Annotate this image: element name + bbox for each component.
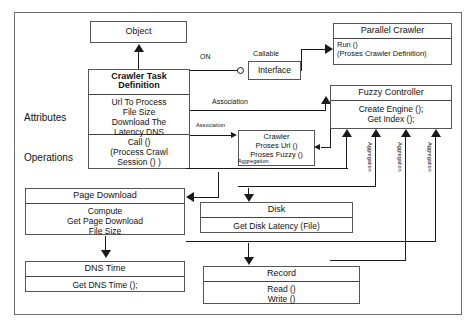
connector-label-on: ON — [200, 53, 211, 60]
fuzzy-to-crawler-hline — [321, 147, 331, 148]
dns-time-body: Get DNS Time (); — [26, 277, 184, 292]
interface-title: Interface — [249, 62, 300, 78]
aggregation-3-hline — [330, 260, 406, 261]
interface-to-parallel-arrowhead — [325, 44, 333, 54]
connector-label-aggregation-4: Aggregation — [427, 142, 433, 172]
record-title: Record — [204, 267, 359, 282]
ctd-attr-2: File Size — [91, 107, 187, 117]
page-download-to-dns-arrowhead — [101, 250, 111, 258]
aggregation-3-arrowhead — [401, 129, 411, 137]
aggregation-1-vline — [346, 137, 347, 169]
fuzzy-to-crawler-arrowhead — [314, 144, 320, 150]
connector-label-aggregation-2: Aggregation — [367, 142, 373, 172]
dns-time-op-1: Get DNS Time (); — [28, 280, 182, 290]
connector-label-association-1: Association — [212, 98, 248, 105]
class-box-dns-time[interactable]: DNS Time Get DNS Time (); — [25, 261, 185, 292]
class-box-parallel-crawler[interactable]: Parallel Crawler Run () (Proses Crawler … — [333, 23, 452, 65]
aggregation-2-arrowhead — [371, 129, 381, 137]
class-box-page-download[interactable]: Page Download Compute Get Page Download … — [25, 188, 185, 235]
class-box-fuzzy-controller[interactable]: Fuzzy Controller Create Engine (); Get I… — [330, 85, 452, 129]
parallel-crawler-body: Run () (Proses Crawler Definition) — [334, 39, 451, 64]
aggregation-4-arrowhead — [431, 129, 441, 137]
dns-time-title: DNS Time — [26, 262, 184, 277]
crawler-to-page-download-arrowhead — [186, 192, 194, 202]
crawler-task-definition-attributes: Url To Process File Size Download The La… — [89, 95, 189, 135]
class-box-interface[interactable]: Interface — [248, 61, 301, 80]
ctd-attr-3: Download The — [91, 117, 187, 127]
page-download-op-3: File Size — [28, 226, 182, 236]
ctd-attr-1: Url To Process — [91, 97, 187, 107]
record-op-2: Write () — [206, 294, 357, 304]
crawler-task-definition-operations: Call () (Process Crawl Session () ) — [89, 135, 189, 169]
generalization-arrowhead-object — [134, 44, 144, 52]
object-title: Object — [91, 22, 186, 39]
crawler-to-page-download-hline — [194, 197, 219, 198]
disk-body: Get Disk Latency (File) — [201, 218, 352, 233]
connector-label-association-2: Association — [196, 122, 225, 128]
parallel-crawler-title: Parallel Crawler — [334, 24, 451, 39]
ctd-op-2: (Process Crawl — [91, 147, 187, 157]
page-download-body: Compute Get Page Download File Size — [26, 204, 184, 238]
disk-op-1: Get Disk Latency (File) — [203, 221, 350, 231]
association-2-arrowhead — [231, 132, 237, 138]
association-2-hline — [190, 135, 233, 136]
class-box-crawler-task-definition[interactable]: Crawler Task Definition Url To Process F… — [88, 69, 190, 169]
record-body: Read () Write () — [204, 282, 359, 306]
association-1-hline — [190, 110, 326, 111]
ctd-op-3: Session () ) — [91, 157, 187, 167]
fuzzy-controller-title: Fuzzy Controller — [331, 86, 451, 101]
on-connector-line — [190, 70, 238, 71]
crawler-task-definition-title: Crawler Task Definition — [89, 70, 189, 95]
aggregation-1-hline — [186, 168, 348, 169]
fuzzy-to-crawler-vline — [330, 129, 331, 147]
class-box-record[interactable]: Record Read () Write () — [203, 266, 360, 304]
aggregation-4-vline — [435, 137, 436, 242]
fuzzy-controller-op-2: Get Index (); — [333, 114, 449, 124]
fuzzy-controller-op-1: Create Engine (); — [333, 104, 449, 114]
ctd-op-1: Call () — [91, 137, 187, 147]
fuzzy-controller-body: Create Engine (); Get Index (); — [331, 101, 451, 128]
side-label-operations: Operations — [24, 152, 73, 163]
interface-to-parallel-hline — [301, 49, 326, 50]
class-box-object[interactable]: Object — [90, 21, 187, 43]
page-download-op-2: Get Page Download — [28, 216, 182, 226]
connector-label-aggregation-1: Aggregation — [238, 158, 269, 164]
page-download-op-1: Compute — [28, 206, 182, 216]
crawler-to-page-download-vline — [218, 172, 219, 197]
interface-to-parallel-vline — [301, 49, 302, 71]
aggregation-4-hline — [186, 241, 436, 242]
record-op-1: Read () — [206, 284, 357, 294]
interface-lollipop-icon — [237, 67, 244, 74]
aggregation-1-arrowhead — [342, 129, 352, 137]
ctd-title-line-2: Definition — [91, 81, 187, 90]
association-1-vline — [325, 103, 326, 111]
aggregation-3-vline — [405, 137, 406, 261]
aggregation-2-vline — [375, 137, 376, 187]
connector-label-aggregation-3: Aggregation — [397, 142, 403, 172]
interface-stereotype-label: Callable — [253, 50, 279, 57]
side-label-attributes: Attributes — [24, 112, 66, 123]
aggregation-2-hline — [238, 186, 376, 187]
disk-title: Disk — [201, 203, 352, 218]
page-download-title: Page Download — [26, 189, 184, 204]
to-disk-arrowhead — [244, 194, 254, 202]
generalization-line-object — [138, 52, 139, 70]
diagram-canvas: Object Crawler Task Definition Url To Pr… — [0, 0, 473, 327]
class-box-disk[interactable]: Disk Get Disk Latency (File) — [200, 202, 353, 233]
disk-to-record-arrowhead — [244, 257, 254, 265]
parallel-crawler-op-2: (Proses Crawler Definition) — [337, 50, 449, 59]
